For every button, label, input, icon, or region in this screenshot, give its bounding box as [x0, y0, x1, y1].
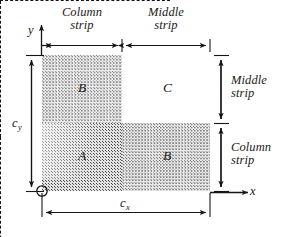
- dimension-cy-base: c: [12, 116, 18, 130]
- region-label-top-right: C: [163, 81, 172, 95]
- right-column-strip-label: Column strip: [231, 141, 271, 167]
- top-middle-strip-line2: strip: [154, 18, 177, 32]
- top-column-strip-line1: Column: [62, 5, 102, 19]
- dimension-label-cy: cy: [12, 117, 22, 130]
- top-middle-strip-label: Middle strip: [131, 6, 201, 32]
- right-middle-strip-line1: Middle: [231, 73, 267, 87]
- y-axis-label: y: [28, 24, 34, 37]
- right-column-strip-line1: Column: [231, 140, 271, 154]
- right-middle-strip-label: Middle strip: [231, 74, 267, 100]
- region-label-bottom-left: A: [78, 149, 86, 163]
- dimension-label-cx: cx: [120, 197, 130, 210]
- figure-canvas: Column strip Middle strip Middle strip C…: [0, 0, 299, 237]
- dimension-cy-subscript: y: [18, 122, 22, 132]
- dimension-cx-subscript: x: [126, 202, 130, 212]
- region-label-top-left: B: [78, 81, 86, 95]
- annotation-overlay: [0, 0, 299, 237]
- right-column-strip-line2: strip: [231, 153, 254, 167]
- top-column-strip-line2: strip: [70, 18, 93, 32]
- x-axis-label: x: [250, 185, 256, 198]
- dimension-cx-base: c: [120, 196, 126, 210]
- top-middle-strip-line1: Middle: [148, 5, 184, 19]
- region-label-bottom-right: B: [163, 149, 171, 163]
- top-column-strip-label: Column strip: [47, 6, 117, 32]
- right-middle-strip-line2: strip: [231, 86, 254, 100]
